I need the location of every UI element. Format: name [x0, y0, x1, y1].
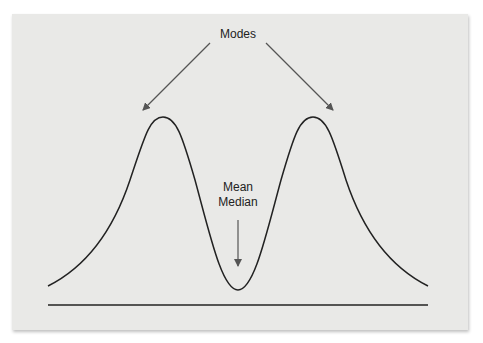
bimodal-curve-diagram [0, 0, 483, 343]
mode-arrow-right [266, 43, 333, 110]
mode-arrow-left [143, 43, 210, 110]
median-label: Median [208, 195, 268, 210]
mean-label: Mean [208, 180, 268, 195]
modes-label: Modes [213, 27, 263, 42]
